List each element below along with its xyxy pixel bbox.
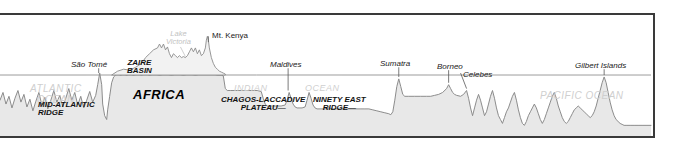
point-label-borneo: Borneo: [437, 63, 463, 71]
feature-label-mid-atlantic-ridge: MID-ATLANTIC RIDGE: [38, 101, 95, 118]
ocean-label-indian-ocean-word: OCEAN: [305, 84, 340, 93]
point-label-gilbert-islands: Gilbert Islands: [575, 62, 626, 70]
point-label-mt-kenya: Mt. Kenya: [212, 32, 248, 40]
feature-label-chagos-laccadive-plateau: CHAGOS-LACCADIVE PLATEAU—: [221, 96, 305, 113]
ocean-label-pacific: PACIFIC OCEAN: [540, 91, 624, 102]
indian-word: INDIAN: [234, 83, 268, 93]
feature-label-ninety-east-ridge: NINETY EAST RIDGE—: [313, 96, 366, 113]
point-label-maldives: Maldives: [270, 61, 302, 69]
feature-label-zaire-basin: ZAIRE BASIN: [127, 59, 152, 76]
zaire-basin-line2: BASIN: [127, 67, 152, 75]
ocean-label-indian: INDIAN: [234, 84, 268, 93]
point-label-sao-tome: São Tomé: [71, 61, 107, 69]
cross-section-panel: ATLANTIC OCEAN INDIAN OCEAN PACIFIC OCEA…: [0, 13, 655, 138]
chagos-laccadive-line2: PLATEAU—: [221, 104, 305, 112]
point-label-sumatra: Sumatra: [380, 60, 410, 68]
point-label-lake-victoria: Lake Victoria: [166, 30, 191, 46]
point-label-celebes: Celebes: [463, 71, 492, 79]
mid-atlantic-ridge-line2: RIDGE: [38, 109, 95, 117]
diagram-frame: ATLANTIC OCEAN INDIAN OCEAN PACIFIC OCEA…: [0, 0, 691, 156]
lake-victoria-line2: Victoria: [166, 38, 191, 46]
atlantic-line1: ATLANTIC: [30, 84, 82, 95]
lake-victoria-leader: [180, 47, 185, 57]
ninety-east-ridge-line2: RIDGE—: [313, 104, 366, 112]
indian-ocean-word: OCEAN: [305, 83, 340, 93]
elevation-profile-svg: [0, 15, 653, 136]
landmass-label-africa: AFRICA: [133, 88, 185, 102]
